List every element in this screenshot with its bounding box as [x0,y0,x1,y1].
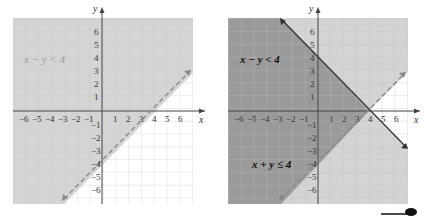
svg-text:3: 3 [139,114,144,124]
pencil-icon [381,208,417,216]
x-axis-label: x [198,114,204,125]
svg-text:2: 2 [126,114,131,124]
svg-text:−5: −5 [91,172,101,182]
svg-text:3: 3 [355,114,360,124]
svg-text:5: 5 [94,40,99,50]
svg-text:−4: −4 [260,114,270,124]
svg-text:−3: −3 [307,146,317,156]
svg-text:−3: −3 [58,114,68,124]
svg-text:−2: −2 [307,133,317,143]
x-axis-arrow-icon [414,109,420,114]
svg-text:4: 4 [94,53,99,63]
svg-text:2: 2 [342,114,347,124]
x-axis-label: x [413,114,419,125]
svg-text:−2: −2 [71,114,81,124]
svg-text:5: 5 [381,114,386,124]
inequality-label-1: x − y < 4 [239,53,280,65]
right-graph: y x x − y < 4 x + y ≤ 4 −6 −5 −4 −3 −2 −… [228,3,420,204]
svg-text:−6: −6 [234,114,244,124]
left-graph: y x x − y < 4 −6 −5 −4 −3 −2 −1 1 2 3 4 … [13,3,205,204]
svg-text:−5: −5 [307,172,317,182]
svg-text:6: 6 [94,27,99,37]
svg-text:1: 1 [329,114,334,124]
svg-text:1: 1 [113,114,118,124]
svg-text:6: 6 [310,27,315,37]
svg-text:2: 2 [94,79,99,89]
inequality-label: x − y < 4 [23,53,66,65]
svg-text:−3: −3 [91,146,101,156]
svg-text:5: 5 [310,40,315,50]
svg-text:4: 4 [368,114,373,124]
svg-text:−6: −6 [91,185,101,195]
svg-text:−4: −4 [307,159,317,169]
y-axis-arrow-icon [316,7,321,13]
svg-text:1: 1 [310,92,315,102]
svg-text:1: 1 [94,92,99,102]
svg-text:2: 2 [310,79,315,89]
svg-text:4: 4 [152,114,157,124]
x-axis-arrow-icon [199,109,205,114]
svg-text:3: 3 [310,66,315,76]
y-axis-label: y [92,3,98,14]
svg-text:−5: −5 [247,114,257,124]
figure-canvas: y x x − y < 4 −6 −5 −4 −3 −2 −1 1 2 3 4 … [0,0,441,216]
svg-text:−6: −6 [307,185,317,195]
svg-text:5: 5 [165,114,170,124]
svg-text:−2: −2 [91,133,101,143]
svg-text:−3: −3 [273,114,283,124]
inequality-label-2: x + y ≤ 4 [251,158,292,170]
svg-text:4: 4 [310,53,315,63]
svg-text:−1: −1 [307,120,317,130]
svg-text:6: 6 [394,114,399,124]
svg-text:−4: −4 [45,114,55,124]
svg-text:−5: −5 [32,114,42,124]
svg-text:−6: −6 [19,114,29,124]
svg-text:−4: −4 [91,159,101,169]
svg-text:−2: −2 [286,114,296,124]
y-axis-arrow-icon [100,7,105,13]
y-axis-label: y [308,3,314,14]
svg-text:−1: −1 [91,120,101,130]
svg-text:6: 6 [178,114,183,124]
svg-text:3: 3 [94,66,99,76]
